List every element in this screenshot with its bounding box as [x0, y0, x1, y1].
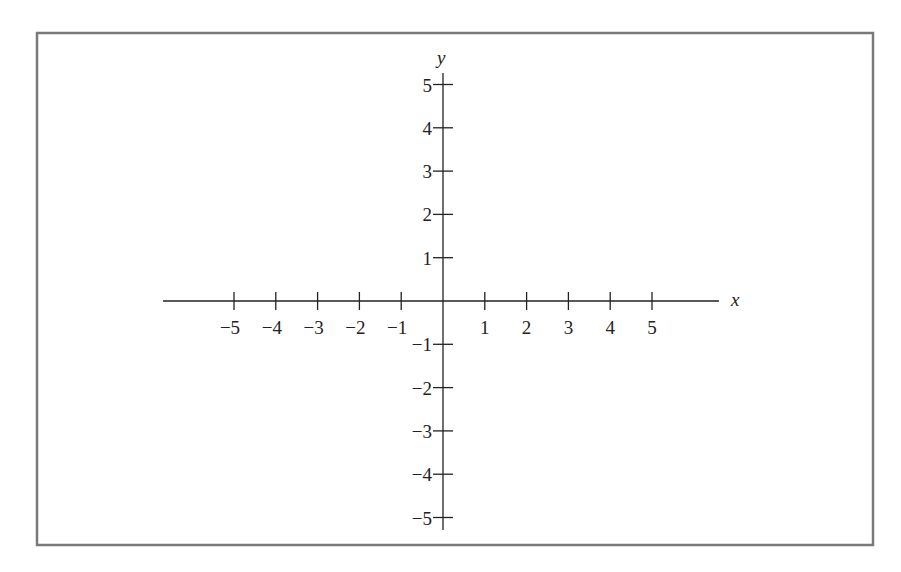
- y-tick-label: −4: [412, 464, 433, 485]
- x-tick-label: 3: [564, 317, 574, 338]
- x-tick-label: 4: [605, 317, 615, 338]
- coordinate-plane-svg: x y −5−4−3−2−112345 54321−1−2−3−4−5: [0, 0, 901, 572]
- y-tick-label: 3: [423, 161, 433, 182]
- x-tick-label: 2: [522, 317, 532, 338]
- x-tick-label: −1: [387, 317, 407, 338]
- y-axis-label: y: [435, 47, 446, 68]
- y-tick-label: −1: [412, 334, 432, 355]
- y-tick-label: −3: [412, 421, 432, 442]
- y-tick-label: 4: [423, 118, 433, 139]
- x-tick-label: −3: [303, 317, 323, 338]
- coordinate-plane-figure: x y −5−4−3−2−112345 54321−1−2−3−4−5: [0, 0, 901, 572]
- x-tick-label: −4: [262, 317, 283, 338]
- x-tick-label: 1: [480, 317, 490, 338]
- y-tick-label: 1: [423, 248, 433, 269]
- y-tick-label: −5: [412, 508, 432, 529]
- y-tick-label: 2: [423, 204, 433, 225]
- figure-frame: [37, 33, 873, 545]
- x-tick-label: −5: [220, 317, 240, 338]
- x-axis-label: x: [730, 289, 740, 310]
- y-tick-label: −2: [412, 378, 432, 399]
- x-tick-label: −2: [345, 317, 365, 338]
- x-tick-label: 5: [647, 317, 657, 338]
- y-tick-label: 5: [423, 75, 433, 96]
